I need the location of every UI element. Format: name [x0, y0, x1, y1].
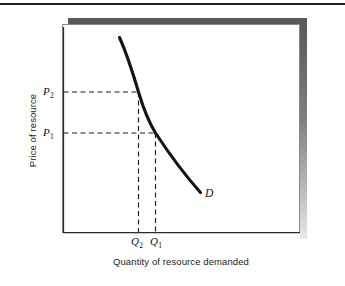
y-tick-label-p1: P1 [43, 127, 53, 138]
x-tick-q2-letter: Q [131, 235, 139, 247]
y-tick-p1-subscript: 1 [50, 132, 54, 141]
curve-label-d: D [205, 188, 213, 200]
x-tick-q1-letter: Q [150, 235, 158, 247]
figure-root: Price of resource Quantity of resource d… [0, 0, 345, 286]
y-tick-p1-letter: P [43, 126, 50, 138]
x-tick-label-q2: Q2 [131, 236, 143, 247]
y-tick-label-p2: P2 [43, 86, 53, 97]
x-axis-title: Quantity of resource demanded [62, 256, 300, 267]
y-tick-p2-subscript: 2 [50, 91, 54, 100]
x-tick-q2-subscript: 2 [139, 241, 143, 250]
y-axis-title: Price of resource [27, 66, 38, 196]
x-tick-label-q1: Q1 [150, 236, 162, 247]
chart-plot-area [0, 0, 345, 286]
demand-curve-d [120, 38, 201, 193]
x-tick-q1-subscript: 1 [158, 241, 162, 250]
y-tick-p2-letter: P [43, 85, 50, 97]
